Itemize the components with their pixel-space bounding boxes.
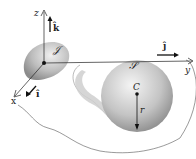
radius-label: r bbox=[140, 105, 145, 115]
i-unit-label: î bbox=[36, 89, 40, 99]
k-unit-label: k̂ bbox=[53, 21, 60, 33]
origin-point bbox=[42, 61, 46, 65]
x-axis-label: x bbox=[11, 96, 16, 106]
small-body bbox=[24, 42, 69, 80]
center-label: C bbox=[133, 82, 140, 92]
z-axis-label: z bbox=[33, 8, 39, 18]
j-unit-label: ĵ bbox=[162, 41, 167, 51]
rigid-body-diagram: z y x k̂ ĵ î 𝒥 𝒮 C r bbox=[0, 0, 196, 159]
y-axis-label: y bbox=[184, 65, 191, 75]
